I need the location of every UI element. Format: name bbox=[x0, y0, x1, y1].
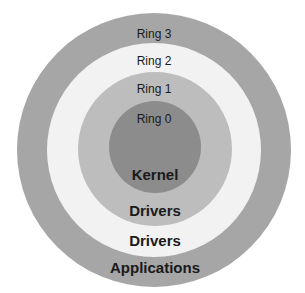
ring-1-role-label: Drivers bbox=[129, 202, 181, 219]
protection-rings-diagram: Ring 3 Ring 2 Ring 1 Ring 0 Kernel Drive… bbox=[0, 0, 305, 293]
ring-3-label: Ring 3 bbox=[137, 27, 172, 41]
applications-label: Applications bbox=[110, 259, 200, 276]
ring-2-label: Ring 2 bbox=[137, 54, 172, 68]
kernel-label: Kernel bbox=[132, 166, 179, 183]
ring-2-role-label: Drivers bbox=[129, 232, 181, 249]
ring-1-label: Ring 1 bbox=[137, 82, 172, 96]
ring-0-label: Ring 0 bbox=[137, 112, 172, 126]
